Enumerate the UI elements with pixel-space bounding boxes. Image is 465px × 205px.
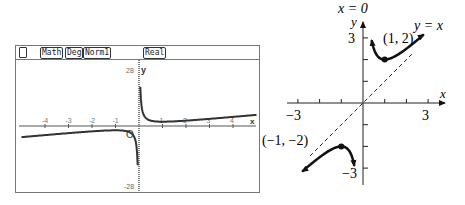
point-max-marker	[338, 143, 344, 149]
sketch-x-tick-right-label: 3	[422, 108, 429, 123]
sketch-x-axis-label: x	[439, 86, 446, 101]
calc-x-tick-label: -2	[89, 117, 95, 124]
sketch-y-axis-label: y	[349, 14, 357, 29]
sketch-y-tick-top-label: 3	[348, 31, 355, 46]
calc-curve-right-branch	[140, 87, 256, 122]
calc-y-min-label: -28	[124, 183, 134, 190]
point-max-label: (−1, −2)	[262, 133, 308, 149]
calc-x-tick-label: 1	[160, 117, 164, 124]
calc-y-max-label: 28	[126, 67, 134, 74]
sketch-y-tick-bottom-label: −3	[342, 166, 357, 181]
graph-svg: -4-3-2-11234 28 -28 y x O x = 0 y = x y …	[0, 0, 465, 205]
calc-x-tick-label: -3	[66, 117, 72, 124]
point-min-marker	[382, 57, 388, 63]
point-min-label: (1, 2)	[383, 31, 414, 47]
calc-x-tick-label: -4	[42, 117, 48, 124]
calc-y-axis-label: y	[141, 65, 146, 75]
oblique-asymptote	[310, 54, 412, 156]
calc-curve-left-branch	[22, 130, 138, 165]
oblique-asymptote-label: y = x	[412, 18, 444, 33]
calc-x-axis-label: x	[250, 117, 255, 126]
sketch-x-tick-left-label: −3	[286, 108, 301, 123]
calc-x-tick-label: -1	[113, 117, 119, 124]
